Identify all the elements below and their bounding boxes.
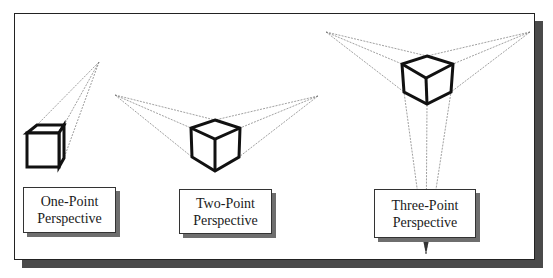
- two-point-cube: [191, 120, 240, 171]
- three-point-bottom-vanishing-point: [423, 240, 429, 254]
- two-point-label: Two-Point Perspective: [179, 189, 272, 234]
- two-point-label-line2: Perspective: [193, 212, 258, 229]
- one-point-label-line2: Perspective: [37, 210, 102, 227]
- one-point-label-line1: One-Point: [41, 193, 99, 210]
- three-point-label-line1: Three-Point: [392, 197, 459, 214]
- one-point-cube: [27, 125, 64, 167]
- two-point-label-line1: Two-Point: [196, 195, 255, 212]
- three-point-label: Three-Point Perspective: [374, 189, 476, 238]
- three-point-label-line2: Perspective: [393, 214, 458, 231]
- one-point-label: One-Point Perspective: [23, 187, 116, 233]
- three-point-cube: [402, 56, 453, 104]
